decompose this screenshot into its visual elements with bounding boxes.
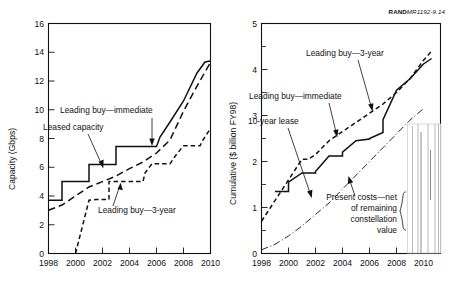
left-series-leased-capacity — [49, 62, 211, 210]
left-xtick-1998: 1998 — [39, 258, 58, 268]
right-annotation-present-brace — [400, 192, 406, 230]
right-leader-3year — [358, 60, 371, 106]
left-ytick-4: 4 — [39, 191, 44, 201]
right-x-ticks — [262, 248, 424, 254]
left-annotation-3year: Leading buy—3-year — [98, 205, 176, 215]
left-xtick-2010: 2010 — [201, 258, 220, 268]
left-x-ticks — [49, 248, 211, 254]
left-ytick-12: 12 — [34, 76, 44, 86]
left-ytick-6: 6 — [39, 162, 44, 172]
left-annotation-immediate: Leading buy—immediate — [60, 105, 153, 115]
chart-left-capacity: Capacity (Gbps) 0 2 4 6 8 10 12 14 16 — [0, 0, 228, 283]
right-arrowhead-3year — [368, 103, 373, 111]
right-annotation-3year: Leading buy—3-year — [306, 48, 384, 58]
right-arrowhead-lease — [307, 190, 312, 199]
right-xtick-2000: 2000 — [279, 258, 298, 268]
right-ytick-4: 4 — [252, 65, 257, 75]
right-xtick-2002: 2002 — [306, 258, 325, 268]
right-annotation-present-line2: of remaining — [351, 203, 397, 213]
right-series-present-costs — [262, 109, 424, 250]
right-annotation-lease: 10-year lease — [248, 116, 299, 126]
left-series-leading-buy-3-year — [76, 128, 211, 253]
right-arrowhead-present — [348, 176, 353, 184]
left-ytick-10: 10 — [34, 105, 44, 115]
left-xtick-2000: 2000 — [66, 258, 85, 268]
left-y-ticks — [49, 24, 55, 254]
left-arrowhead-3year — [118, 183, 123, 191]
right-xtick-2010: 2010 — [414, 258, 433, 268]
left-ytick-8: 8 — [39, 134, 44, 144]
right-xtick-2008: 2008 — [387, 258, 406, 268]
left-plot-frame — [49, 24, 211, 254]
right-ytick-5: 5 — [252, 19, 257, 29]
left-y-axis-title: Capacity (Gbps) — [7, 128, 17, 190]
left-ytick-14: 14 — [34, 47, 44, 57]
left-leader-leased — [88, 134, 101, 163]
right-xtick-2004: 2004 — [333, 258, 352, 268]
right-y-minor-ticks — [262, 47, 267, 231]
left-xtick-2008: 2008 — [174, 258, 193, 268]
left-ytick-2: 2 — [39, 220, 44, 230]
chart-right-cumulative: Cumulative ($ billion FY98) 0 1 2 3 4 5 — [222, 0, 451, 283]
right-ytick-2: 2 — [252, 157, 257, 167]
left-arrowhead-immediate — [149, 139, 154, 147]
right-ytick-1: 1 — [252, 203, 257, 213]
right-leader-lease — [288, 128, 310, 193]
figure-container: RANDMR1192-9.14 Capacity (Gbps) 0 2 4 6 … — [0, 0, 451, 283]
left-annotation-leased: Leased capacity — [43, 122, 104, 132]
left-xtick-2002: 2002 — [93, 258, 112, 268]
left-xtick-2004: 2004 — [120, 258, 139, 268]
right-y-axis-title: Cumulative ($ billion FY98) — [228, 102, 238, 205]
scan-artifact-streaks — [408, 124, 441, 253]
right-annotation-present-line4: value — [377, 225, 397, 235]
left-xtick-2006: 2006 — [147, 258, 166, 268]
right-leader-immediate — [329, 103, 336, 132]
right-xtick-1998: 1998 — [252, 258, 271, 268]
right-xtick-2006: 2006 — [360, 258, 379, 268]
left-leader-3year — [113, 188, 119, 206]
right-annotation-immediate: Leading buy—immediate — [249, 91, 342, 101]
left-ytick-16: 16 — [34, 19, 44, 29]
right-annotation-present-line1: Present costs—net — [326, 192, 397, 202]
right-annotation-present-line3: constellation — [350, 214, 397, 224]
